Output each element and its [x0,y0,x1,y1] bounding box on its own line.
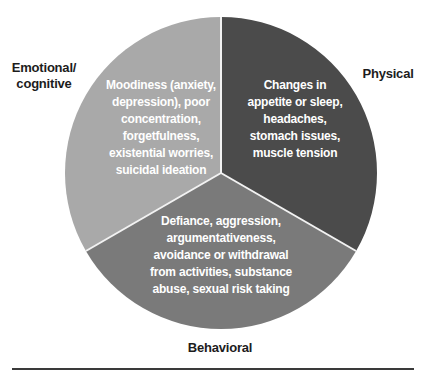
bottom-divider-rule [12,368,414,370]
label-behavioral: Behavioral [170,340,270,356]
segment-text-emotional: Moodiness (anxiety, depression), poor co… [100,77,222,179]
pie-diagram [0,0,425,374]
segment-text-behavioral: Defiance, aggression, argumentativeness,… [142,213,300,298]
segment-text-physical: Changes in appetite or sleep, headaches,… [236,77,354,162]
label-emotional-cognitive: Emotional/ cognitive [6,60,82,92]
label-physical: Physical [358,66,418,82]
